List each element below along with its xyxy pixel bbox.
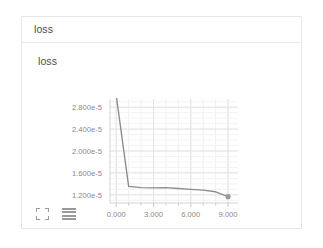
y-tick-label: 2.000e-5 <box>72 147 102 156</box>
series-endpoint-marker[interactable] <box>225 194 230 199</box>
card-body: loss 1.200e-51.600e-52.000e-52.400e-52.8… <box>22 43 301 228</box>
screenshot-root: loss loss 1.200e-51.600e-52.000e-52.400e… <box>0 0 323 248</box>
chart-plot-area[interactable]: 1.200e-51.600e-52.000e-52.400e-52.800e-5… <box>22 43 301 228</box>
chart-tick-marks <box>116 203 228 207</box>
y-tick-label: 2.800e-5 <box>72 103 102 112</box>
y-tick-label: 1.600e-5 <box>72 169 102 178</box>
y-tick-label: 1.200e-5 <box>72 191 102 200</box>
chart-series-marker[interactable] <box>225 194 230 199</box>
y-tick-label: 2.400e-5 <box>72 125 102 134</box>
x-tick-label: 0.000 <box>107 210 126 219</box>
card-header: loss <box>22 17 301 43</box>
x-tick-label: 3.000 <box>144 210 163 219</box>
expand-icon[interactable] <box>36 208 49 220</box>
chart-gridlines-major <box>110 99 238 203</box>
chart-y-tick-labels: 1.200e-51.600e-52.000e-52.400e-52.800e-5 <box>72 103 102 200</box>
x-tick-label: 9.000 <box>219 210 238 219</box>
loss-card: loss loss 1.200e-51.600e-52.000e-52.400e… <box>21 16 302 229</box>
loss-line-chart[interactable]: 1.200e-51.600e-52.000e-52.400e-52.800e-5… <box>22 43 301 228</box>
x-tick-label: 6.000 <box>181 210 200 219</box>
chart-toolbar <box>36 208 76 220</box>
card-header-title: loss <box>34 22 53 36</box>
chart-x-tick-labels: 0.0003.0006.0009.000 <box>107 210 238 219</box>
menu-icon[interactable] <box>62 208 76 220</box>
